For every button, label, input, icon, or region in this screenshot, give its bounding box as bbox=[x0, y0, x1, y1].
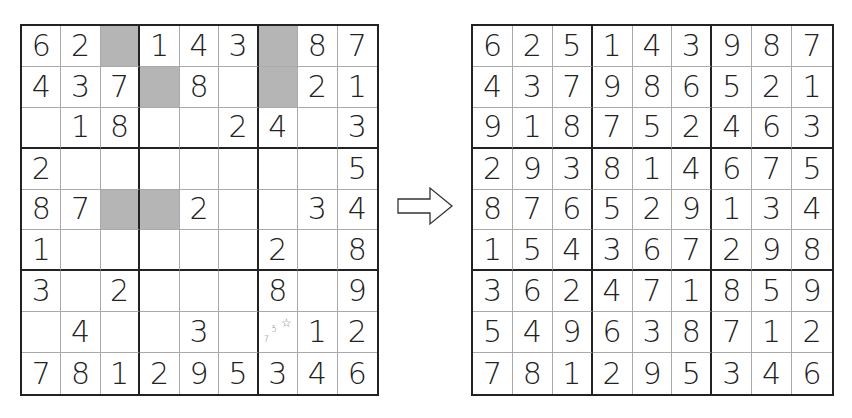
puzzle-cell-r6c3[interactable] bbox=[101, 230, 140, 271]
solution-cell-r6c3: 4 bbox=[553, 230, 593, 271]
puzzle-cell-r7c5[interactable] bbox=[180, 271, 219, 312]
puzzle-cell-r4c2[interactable] bbox=[61, 149, 100, 190]
puzzle-cell-r9c5[interactable]: 9 bbox=[180, 353, 219, 394]
puzzle-cell-r1c1[interactable]: 6 bbox=[22, 26, 61, 67]
solution-cell-r3c1: 9 bbox=[473, 108, 513, 149]
puzzle-cell-r5c2[interactable]: 7 bbox=[61, 190, 100, 231]
puzzle-cell-r5c1[interactable]: 8 bbox=[22, 190, 61, 231]
puzzle-cell-r5c4[interactable] bbox=[140, 190, 179, 231]
puzzle-cell-r2c8[interactable]: 2 bbox=[298, 67, 337, 108]
puzzle-cell-r2c5[interactable]: 8 bbox=[180, 67, 219, 108]
puzzle-cell-r2c1[interactable]: 4 bbox=[22, 67, 61, 108]
puzzle-cell-r6c1[interactable]: 1 bbox=[22, 230, 61, 271]
puzzle-cell-r8c7[interactable]: 57☆ bbox=[259, 312, 298, 353]
puzzle-cell-r9c6[interactable]: 5 bbox=[219, 353, 258, 394]
puzzle-cell-r5c5[interactable]: 2 bbox=[180, 190, 219, 231]
solution-cell-r9c4: 2 bbox=[593, 353, 633, 394]
puzzle-cell-r3c9[interactable]: 3 bbox=[338, 108, 377, 149]
solution-cell-r7c5: 7 bbox=[633, 271, 673, 312]
puzzle-cell-r1c2[interactable]: 2 bbox=[61, 26, 100, 67]
solution-cell-r9c8: 4 bbox=[752, 353, 792, 394]
puzzle-cell-r6c5[interactable] bbox=[180, 230, 219, 271]
puzzle-cell-r7c7[interactable]: 8 bbox=[259, 271, 298, 312]
puzzle-cell-r4c9[interactable]: 5 bbox=[338, 149, 377, 190]
puzzle-cell-r8c1[interactable] bbox=[22, 312, 61, 353]
puzzle-cell-r3c8[interactable] bbox=[298, 108, 337, 149]
puzzle-cell-r6c8[interactable] bbox=[298, 230, 337, 271]
puzzle-cell-r9c3[interactable]: 1 bbox=[101, 353, 140, 394]
puzzle-cell-r6c6[interactable] bbox=[219, 230, 258, 271]
puzzle-cell-r7c8[interactable] bbox=[298, 271, 337, 312]
puzzle-cell-r1c3[interactable] bbox=[101, 26, 140, 67]
puzzle-cell-r3c1[interactable] bbox=[22, 108, 61, 149]
puzzle-cell-r4c8[interactable] bbox=[298, 149, 337, 190]
puzzle-cell-r3c6[interactable]: 2 bbox=[219, 108, 258, 149]
puzzle-cell-r8c2[interactable]: 4 bbox=[61, 312, 100, 353]
puzzle-cell-r7c1[interactable]: 3 bbox=[22, 271, 61, 312]
puzzle-cell-r3c7[interactable]: 4 bbox=[259, 108, 298, 149]
puzzle-cell-r9c8[interactable]: 4 bbox=[298, 353, 337, 394]
puzzle-cell-r8c8[interactable]: 1 bbox=[298, 312, 337, 353]
puzzle-cell-r9c7[interactable]: 3 bbox=[259, 353, 298, 394]
puzzle-cell-r1c5[interactable]: 4 bbox=[180, 26, 219, 67]
puzzle-cell-r2c2[interactable]: 3 bbox=[61, 67, 100, 108]
puzzle-cell-r3c2[interactable]: 1 bbox=[61, 108, 100, 149]
solution-cell-r1c1: 6 bbox=[473, 26, 513, 67]
puzzle-cell-r8c6[interactable] bbox=[219, 312, 258, 353]
puzzle-cell-r7c6[interactable] bbox=[219, 271, 258, 312]
solution-cell-r7c2: 6 bbox=[513, 271, 553, 312]
puzzle-cell-r8c5[interactable]: 3 bbox=[180, 312, 219, 353]
puzzle-cell-r5c9[interactable]: 4 bbox=[338, 190, 377, 231]
puzzle-cell-r1c8[interactable]: 8 bbox=[298, 26, 337, 67]
puzzle-cell-r8c4[interactable] bbox=[140, 312, 179, 353]
puzzle-cell-r8c3[interactable] bbox=[101, 312, 140, 353]
star-icon: ☆ bbox=[281, 317, 292, 329]
puzzle-cell-r7c3[interactable]: 2 bbox=[101, 271, 140, 312]
puzzle-cell-r3c4[interactable] bbox=[140, 108, 179, 149]
puzzle-cell-r6c4[interactable] bbox=[140, 230, 179, 271]
puzzle-cell-r7c2[interactable] bbox=[61, 271, 100, 312]
puzzle-cell-r4c7[interactable] bbox=[259, 149, 298, 190]
puzzle-cell-r1c7[interactable] bbox=[259, 26, 298, 67]
solution-cell-r9c6: 5 bbox=[672, 353, 712, 394]
puzzle-cell-r1c9[interactable]: 7 bbox=[338, 26, 377, 67]
puzzle-cell-r7c9[interactable]: 9 bbox=[338, 271, 377, 312]
puzzle-cell-r5c6[interactable] bbox=[219, 190, 258, 231]
solution-cell-r2c6: 6 bbox=[672, 67, 712, 108]
puzzle-cell-r6c9[interactable]: 8 bbox=[338, 230, 377, 271]
puzzle-cell-r4c3[interactable] bbox=[101, 149, 140, 190]
puzzle-cell-r5c8[interactable]: 3 bbox=[298, 190, 337, 231]
puzzle-cell-r2c4[interactable] bbox=[140, 67, 179, 108]
puzzle-cell-r8c9[interactable]: 2 bbox=[338, 312, 377, 353]
puzzle-cell-r4c6[interactable] bbox=[219, 149, 258, 190]
puzzle-cell-r9c2[interactable]: 8 bbox=[61, 353, 100, 394]
solution-cell-r6c4: 3 bbox=[593, 230, 633, 271]
puzzle-cell-r6c7[interactable]: 2 bbox=[259, 230, 298, 271]
solution-cell-r5c6: 9 bbox=[672, 190, 712, 231]
solution-cell-r5c2: 7 bbox=[513, 190, 553, 231]
solution-cell-r7c8: 5 bbox=[752, 271, 792, 312]
puzzle-cell-r2c3[interactable]: 7 bbox=[101, 67, 140, 108]
puzzle-cell-r4c1[interactable]: 2 bbox=[22, 149, 61, 190]
puzzle-cell-r1c6[interactable]: 3 bbox=[219, 26, 258, 67]
puzzle-cell-r5c3[interactable] bbox=[101, 190, 140, 231]
puzzle-cell-r6c2[interactable] bbox=[61, 230, 100, 271]
puzzle-cell-r9c1[interactable]: 7 bbox=[22, 353, 61, 394]
puzzle-cell-r2c6[interactable] bbox=[219, 67, 258, 108]
puzzle-cell-r4c4[interactable] bbox=[140, 149, 179, 190]
puzzle-cell-r4c5[interactable] bbox=[180, 149, 219, 190]
solution-cell-r6c8: 9 bbox=[752, 230, 792, 271]
pencil-mark: 5 bbox=[272, 326, 277, 334]
puzzle-cell-r3c3[interactable]: 8 bbox=[101, 108, 140, 149]
puzzle-cell-r5c7[interactable] bbox=[259, 190, 298, 231]
solution-cell-r9c7: 3 bbox=[712, 353, 752, 394]
puzzle-cell-r7c4[interactable] bbox=[140, 271, 179, 312]
puzzle-cell-r2c7[interactable] bbox=[259, 67, 298, 108]
puzzle-cell-r9c9[interactable]: 6 bbox=[338, 353, 377, 394]
puzzle-cell-r9c4[interactable]: 2 bbox=[140, 353, 179, 394]
puzzle-cell-r1c4[interactable]: 1 bbox=[140, 26, 179, 67]
solution-cell-r6c9: 8 bbox=[792, 230, 832, 271]
solution-cell-r2c9: 1 bbox=[792, 67, 832, 108]
puzzle-cell-r3c5[interactable] bbox=[180, 108, 219, 149]
puzzle-cell-r2c9[interactable]: 1 bbox=[338, 67, 377, 108]
